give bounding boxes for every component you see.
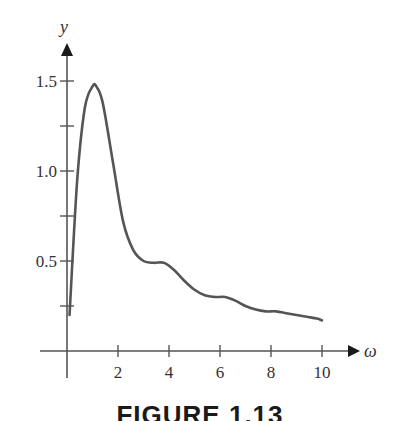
- x-tick-label: 4: [165, 363, 174, 382]
- y-tick-label: 0.5: [36, 252, 57, 271]
- y-axis-arrow-icon: [61, 43, 73, 56]
- y-axis-label: y: [58, 17, 68, 37]
- chart: y ω 2468100.51.01.5: [0, 0, 400, 421]
- x-axis-label: ω: [364, 341, 377, 361]
- axes: y ω: [40, 17, 377, 378]
- x-tick-label: 6: [216, 363, 225, 382]
- figure-caption: FIGURE 1.13: [0, 400, 400, 421]
- x-tick-label: 10: [314, 363, 331, 382]
- y-tick-label: 1.5: [36, 72, 57, 91]
- x-tick-label: 2: [114, 363, 123, 382]
- data-curve: [70, 84, 322, 320]
- ticks: 2468100.51.01.5: [36, 72, 331, 382]
- x-tick-label: 8: [267, 363, 276, 382]
- y-tick-label: 1.0: [36, 162, 57, 181]
- x-axis-arrow-icon: [348, 345, 360, 357]
